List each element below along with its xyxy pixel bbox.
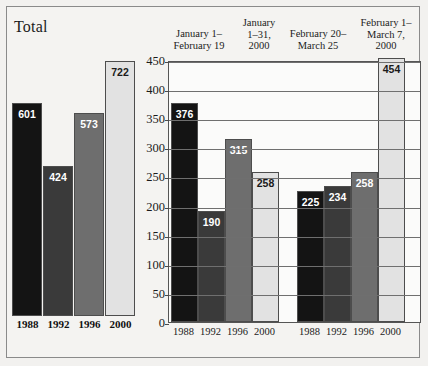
main-bar-g2-1996: 258 — [351, 172, 378, 322]
main-bar-g2-2000: 454 — [378, 58, 405, 322]
main-x-label-4: 1988 — [296, 326, 323, 337]
y-axis-label-50: 50 — [153, 287, 166, 302]
total-bar-value: 573 — [75, 118, 103, 130]
gridline-250 — [169, 178, 420, 179]
y-tick-200 — [165, 208, 169, 209]
y-tick-450 — [165, 62, 169, 63]
main-bar-value: 454 — [379, 63, 404, 75]
main-bar-value: 225 — [298, 196, 323, 208]
main-bar-value: 376 — [172, 108, 197, 120]
gridline-400 — [169, 91, 420, 92]
period-header-2: February 20–March 25 — [284, 28, 352, 51]
total-bar-1988: 601 — [12, 103, 42, 316]
period-header-line: February 19 — [166, 40, 232, 52]
y-axis-label-100: 100 — [146, 258, 165, 273]
y-tick-300 — [165, 149, 169, 150]
total-x-label-1992: 1992 — [43, 318, 74, 338]
period-header-line: January — [234, 17, 284, 29]
total-x-label-2000: 2000 — [105, 318, 136, 338]
y-axis-label-150: 150 — [146, 229, 165, 244]
period-headers: January 1–February 19 January1–31,2000 F… — [166, 8, 420, 64]
main-x-label-7: 2000 — [377, 326, 404, 337]
period-header-0: January 1–February 19 — [166, 28, 232, 51]
main-bar-value: 234 — [325, 191, 350, 203]
period-header-1: January1–31,2000 — [234, 17, 284, 52]
y-axis-label-250: 250 — [146, 170, 165, 185]
total-x-label-1988: 1988 — [12, 318, 43, 338]
y-axis-label-350: 350 — [146, 112, 165, 127]
y-tick-150 — [165, 237, 169, 238]
y-tick-0 — [165, 324, 169, 325]
gridline-450 — [169, 62, 420, 63]
main-bar-g1-2000: 258 — [252, 172, 279, 322]
y-axis-labels: 050100150200250300350400450 — [140, 61, 165, 323]
y-axis-label-450: 450 — [146, 54, 165, 69]
period-header-line: 2000 — [234, 40, 284, 52]
main-bar-g1-1988: 376 — [171, 103, 198, 322]
gridline-200 — [169, 208, 420, 209]
main-x-axis-labels: 19881992199620001988199219962000 — [168, 326, 421, 344]
main-x-label-3: 2000 — [251, 326, 278, 337]
total-panel-title: Total — [14, 18, 48, 36]
y-tick-50 — [165, 295, 169, 296]
gridline-150 — [169, 237, 420, 238]
period-header-line: 1–31, — [234, 29, 284, 41]
y-tick-400 — [165, 91, 169, 92]
main-x-label-5: 1992 — [323, 326, 350, 337]
total-bar-2000: 722 — [105, 61, 135, 316]
y-tick-100 — [165, 266, 169, 267]
total-panel-bars: 601424573722 — [12, 40, 136, 316]
period-header-3: February 1–March 7,2000 — [354, 17, 418, 52]
gridline-50 — [169, 295, 420, 296]
main-plot-area: 376190315258225234258454 — [168, 61, 421, 323]
period-header-line: 2000 — [354, 40, 418, 52]
main-plot-bars: 376190315258225234258454 — [169, 62, 420, 322]
main-bar-g2-1992: 234 — [324, 186, 351, 322]
gridline-350 — [169, 120, 420, 121]
main-plot-wrap: 050100150200250300350400450 376190315258… — [140, 61, 422, 323]
period-header-line: March 7, — [354, 29, 418, 41]
total-x-label-1996: 1996 — [74, 318, 105, 338]
total-bar-value: 424 — [44, 171, 72, 183]
y-tick-350 — [165, 120, 169, 121]
main-bar-g2-1988: 225 — [297, 191, 324, 322]
total-bar-1996: 573 — [74, 113, 104, 316]
period-header-line: February 20– — [284, 28, 352, 40]
total-panel: Total 601424573722 1988199219962000 — [8, 18, 138, 350]
y-axis-label-400: 400 — [146, 83, 165, 98]
total-panel-x-axis: 1988199219962000 — [12, 318, 136, 338]
chart-figure: Total 601424573722 1988199219962000 Janu… — [0, 0, 428, 366]
main-x-label-6: 1996 — [350, 326, 377, 337]
period-header-line: January 1– — [166, 28, 232, 40]
main-x-label-1: 1992 — [197, 326, 224, 337]
total-bar-value: 722 — [106, 66, 134, 78]
y-axis-label-300: 300 — [146, 141, 165, 156]
period-header-line: February 1– — [354, 17, 418, 29]
gridline-300 — [169, 149, 420, 150]
y-axis-label-0: 0 — [159, 316, 165, 331]
period-header-line: March 25 — [284, 40, 352, 52]
main-bar-value: 190 — [199, 216, 224, 228]
y-tick-250 — [165, 178, 169, 179]
total-bar-1992: 424 — [43, 166, 73, 316]
main-x-label-2: 1996 — [224, 326, 251, 337]
main-x-label-0: 1988 — [170, 326, 197, 337]
gridline-100 — [169, 266, 420, 267]
y-axis-label-200: 200 — [146, 200, 165, 215]
main-bar-value: 315 — [226, 144, 251, 156]
total-bar-value: 601 — [13, 108, 41, 120]
main-panel: January 1–February 19 January1–31,2000 F… — [140, 8, 422, 352]
